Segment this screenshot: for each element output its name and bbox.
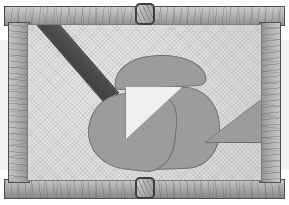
top-clasp[interactable] xyxy=(135,3,155,25)
dark-bar-shape xyxy=(35,24,119,105)
upper-blob-shape xyxy=(113,53,207,91)
light-wedge-shape xyxy=(126,87,182,139)
textured-board xyxy=(27,24,262,181)
framed-board-scene xyxy=(0,0,289,205)
right-triangle-shape xyxy=(206,100,261,142)
frame-rail-right xyxy=(259,22,281,183)
bottom-clasp[interactable] xyxy=(135,177,155,199)
